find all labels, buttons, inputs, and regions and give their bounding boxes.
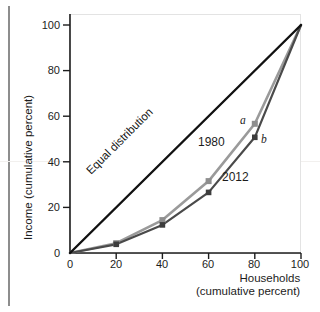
lorenz-curve-figure: 100 80 60 40 20 0 0 20 40 60 80 100 Inco… [0, 0, 320, 312]
chart-canvas [0, 0, 320, 312]
annotation-point-a: a [240, 114, 246, 126]
series-markers-2012 [113, 135, 257, 248]
x-axis-ticks [116, 253, 301, 259]
y-axis-ticks [63, 25, 70, 207]
annotation-point-b: b [261, 133, 267, 145]
annotation-series-1980: 1980 [198, 135, 225, 149]
annotation-series-2012: 2012 [222, 170, 249, 184]
